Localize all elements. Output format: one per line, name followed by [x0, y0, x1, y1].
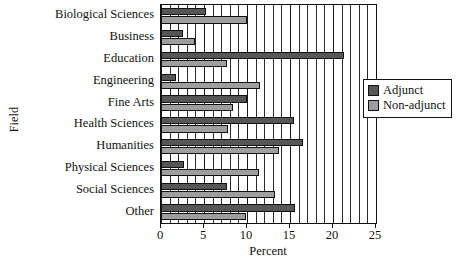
bar-nonadjunct: [161, 169, 259, 176]
bar-nonadjunct: [161, 104, 233, 111]
x-axis-tick-label: 10: [226, 228, 266, 243]
legend-label: Adjunct: [383, 84, 423, 97]
y-axis-category-label: Business: [4, 30, 154, 43]
gridline-minor: [316, 5, 317, 223]
bar-nonadjunct: [161, 213, 246, 220]
y-axis-category-label: Biological Sciences: [4, 8, 154, 21]
plot-area: [160, 4, 377, 224]
x-axis-tick-label: 0: [140, 228, 180, 243]
bar-adjunct: [161, 204, 295, 211]
y-axis-category-label: Social Sciences: [4, 183, 154, 196]
gridline-minor: [342, 5, 343, 223]
legend-item: Adjunct: [368, 83, 445, 98]
legend-swatch-nonadjunct: [368, 100, 379, 111]
x-axis-tick-label: 20: [312, 228, 352, 243]
bar-adjunct: [161, 8, 206, 15]
gridline-minor: [307, 5, 308, 223]
y-axis-category-label: Humanities: [4, 139, 154, 152]
bar-nonadjunct: [161, 82, 260, 89]
bar-adjunct: [161, 95, 247, 102]
y-axis-category-label: Engineering: [4, 74, 154, 87]
y-axis-category-label: Other: [4, 205, 154, 218]
bar-adjunct: [161, 74, 176, 81]
bar-nonadjunct: [161, 147, 279, 154]
legend-swatch-adjunct: [368, 85, 379, 96]
legend: AdjunctNon-adjunct: [363, 79, 452, 118]
bar-nonadjunct: [161, 38, 195, 45]
legend-label: Non-adjunct: [383, 99, 445, 112]
gridline-minor: [324, 5, 325, 223]
gridline-major: [290, 5, 291, 223]
y-axis-category-label: Fine Arts: [4, 96, 154, 109]
y-axis-category-label: Health Sciences: [4, 117, 154, 130]
x-axis-title: Percent: [160, 244, 376, 259]
gridline-minor: [281, 5, 282, 223]
x-axis-tick-label: 15: [269, 228, 309, 243]
gridline-major: [333, 5, 334, 223]
y-axis-category-label: Physical Sciences: [4, 161, 154, 174]
legend-item: Non-adjunct: [368, 98, 445, 113]
bar-nonadjunct: [161, 16, 247, 23]
gridline-minor: [359, 5, 360, 223]
x-axis-tick-label: 5: [183, 228, 223, 243]
gridline-minor: [299, 5, 300, 223]
bar-adjunct: [161, 161, 184, 168]
bar-adjunct: [161, 117, 294, 124]
gridline-minor: [350, 5, 351, 223]
bar-nonadjunct: [161, 191, 275, 198]
bar-nonadjunct: [161, 60, 227, 67]
bar-adjunct: [161, 30, 183, 37]
y-axis-category-labels: Biological SciencesBusinessEducationEngi…: [4, 4, 154, 222]
y-axis-category-label: Education: [4, 52, 154, 65]
bar-chart-figure: Field Biological SciencesBusinessEducati…: [0, 0, 476, 262]
bar-adjunct: [161, 52, 344, 59]
bar-adjunct: [161, 183, 227, 190]
bar-adjunct: [161, 139, 303, 146]
bar-nonadjunct: [161, 125, 228, 132]
x-axis-tick-label: 25: [355, 228, 395, 243]
